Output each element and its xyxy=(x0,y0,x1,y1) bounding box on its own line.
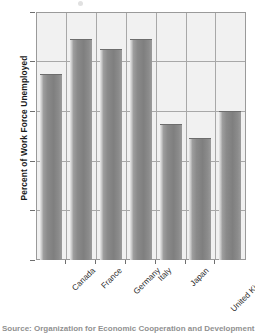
bar-japan xyxy=(160,124,182,260)
bar-chart: Percent of Work Force Unemployed 10 8 6 … xyxy=(0,0,255,334)
source-note-strip: Source: Organization for Economic Cooper… xyxy=(0,326,255,334)
y-tick-mark-2 xyxy=(30,210,35,211)
y-tick-mark-0 xyxy=(30,260,35,261)
bar-germany xyxy=(100,49,122,260)
x-label-united-kingdom: United Kingdom xyxy=(229,266,255,314)
y-tick-mark-4 xyxy=(30,161,35,162)
bar-united-states xyxy=(219,111,241,260)
y-tick-mark-8 xyxy=(30,61,35,62)
top-speck-artifact xyxy=(78,1,83,6)
bar-canada xyxy=(40,74,62,260)
y-tick-mark-10 xyxy=(30,12,35,13)
x-label-japan: Japan xyxy=(189,266,211,288)
bar-france xyxy=(70,39,92,260)
y-axis-title-label: Percent of Work Force Unemployed xyxy=(16,28,32,228)
y-axis-title: Percent of Work Force Unemployed xyxy=(16,28,32,228)
bar-series xyxy=(36,12,246,260)
x-label-germany: Germany xyxy=(132,266,162,296)
bar-italy xyxy=(130,39,152,260)
bar-united-kingdom xyxy=(189,138,211,260)
y-tick-mark-6 xyxy=(30,111,35,112)
x-label-france: France xyxy=(99,266,123,290)
source-note: Source: Organization for Economic Cooper… xyxy=(2,326,254,333)
x-axis-category-labels: Canada France Germany Italy Japan United… xyxy=(0,262,255,322)
x-label-canada: Canada xyxy=(70,266,97,293)
